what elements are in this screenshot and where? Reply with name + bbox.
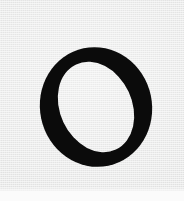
glyph-layer	[0, 0, 184, 201]
letter-o-glyph	[0, 0, 184, 201]
scanned-page: O	[0, 0, 184, 201]
letter-o-ink	[29, 37, 164, 178]
